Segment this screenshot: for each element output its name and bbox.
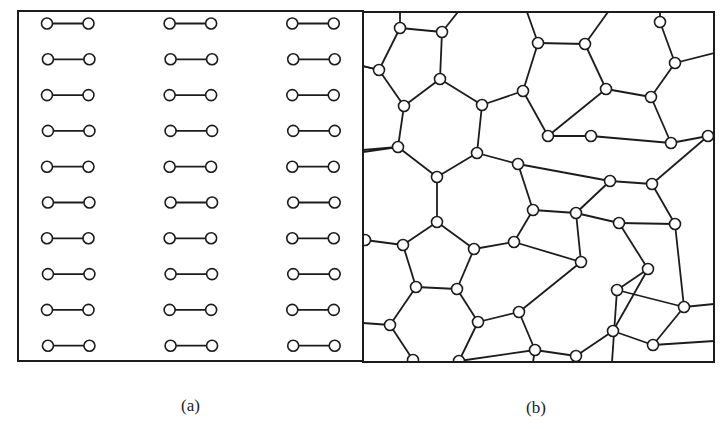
atom-node [206,90,217,101]
atom-node [432,172,443,183]
atom-node [206,376,217,387]
atom-node [83,233,94,244]
atom-node [408,355,419,366]
atom-node [207,54,218,65]
atom-node [410,340,421,351]
atom-node [409,376,420,387]
bond [457,249,474,289]
atom-node [574,376,585,387]
atom-node [643,264,654,275]
atom-node [164,233,175,244]
atom-node [513,159,524,170]
bond [652,136,708,184]
bond [538,43,585,44]
bond [675,224,684,307]
atom-node [288,125,299,136]
atom-node [206,304,217,315]
atom-node [83,304,94,315]
atom-node [532,304,543,315]
bond [400,28,442,32]
atom-node [84,269,95,280]
atom-node [532,90,543,101]
atom-node [451,376,462,387]
atom-node [533,269,544,280]
atom-node [410,54,421,65]
bond [652,184,675,224]
atom-node [288,269,299,280]
atom-node [84,340,95,351]
bond [459,350,535,361]
atom-node [398,240,409,251]
atom-node [605,176,616,187]
bond [606,89,651,97]
bond [459,322,478,361]
atom-node [518,86,529,97]
atom-node [451,304,462,315]
atom-node [452,54,463,65]
bond [576,181,610,213]
atom-node [42,233,53,244]
atom-node [42,18,53,29]
atom-node [164,18,175,29]
bond [398,147,437,177]
atom-node [655,17,666,28]
atom-node [164,376,175,387]
atom-node [543,131,554,142]
bond [613,269,648,331]
atom-node [477,100,488,111]
atom-node [42,269,53,280]
bond [482,91,523,105]
atom-node [533,38,544,49]
atom-node [574,90,585,101]
atom-node [452,340,463,351]
atom-node [452,284,463,295]
atom-node [287,90,298,101]
atom-node [42,125,53,136]
bond [379,28,400,70]
atom-node [452,197,463,208]
atom-node [83,18,94,29]
atom-node [164,90,175,101]
atom-node [703,131,714,142]
atom-node [473,317,484,328]
atom-node [206,161,217,172]
atom-node [329,340,340,351]
atom-node [574,269,585,280]
bond [437,153,477,177]
atom-node [411,282,422,293]
bond [440,79,482,105]
atom-node [452,125,463,136]
atom-node [571,351,582,362]
atom-node [207,125,218,136]
atom-node [328,233,339,244]
bond [660,22,675,63]
atom-node [395,23,406,34]
atom-node [84,412,95,423]
atom-node [410,197,421,208]
bond [619,223,648,269]
atom-node [647,179,658,190]
atom-node [288,340,299,351]
atom-node [437,27,448,38]
atom-node [207,269,218,280]
atom-node [574,54,585,65]
atom-node [514,307,525,318]
atom-node [288,54,299,65]
atom-node [42,304,53,315]
atom-node [532,376,543,387]
atom-node [42,161,53,172]
panel-a-hexagonal-lattice [0,0,585,423]
atom-node [528,205,539,216]
bond [437,222,474,249]
atom-node [393,142,404,153]
atom-node [509,237,520,248]
atom-node [207,412,218,423]
bond [613,331,653,345]
atom-node [574,125,585,136]
bond [651,97,671,143]
atom-node [385,320,396,331]
atom-node [287,233,298,244]
atom-node [574,412,585,423]
network-figure [0,0,726,429]
atom-node [165,269,176,280]
